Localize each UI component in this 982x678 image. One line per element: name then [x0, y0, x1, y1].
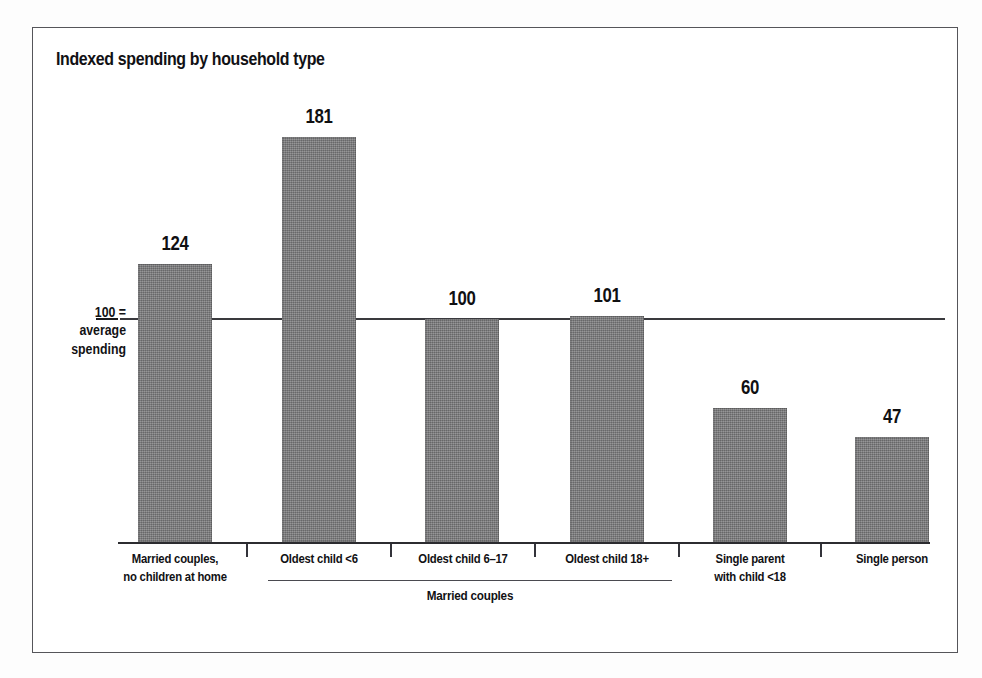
chart-frame: [32, 27, 958, 653]
chart-figure: Indexed spending by household type 100 =…: [0, 0, 982, 678]
chart-title: Indexed spending by household type: [56, 48, 325, 70]
